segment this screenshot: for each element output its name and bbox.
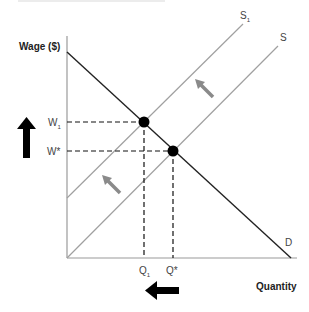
w1-label: W1 [48,117,61,130]
q1-label: Q1 [139,265,151,278]
arrow-up-icon [17,117,36,158]
equilibrium-point-original [168,146,179,157]
arrow-left-icon [145,281,179,300]
supply-curve-s1 [67,24,243,198]
equilibrium-point-new [139,117,150,128]
supply-s1-label: S1 [240,10,251,23]
x-axis-label: Quantity [256,281,297,292]
demand-curve [67,52,291,258]
y-axis-label: Wage ($) [19,41,60,52]
supply-s-label: S [280,32,287,43]
qstar-label: Q* [166,265,178,276]
shift-arrow-icon [195,79,213,97]
wstar-label: W* [47,146,60,157]
demand-label: D [285,237,292,248]
shift-arrow-icon [102,175,120,193]
supply-demand-diagram: Wage ($) Quantity W1 W* Q1 Q* S1 S D [0,0,309,312]
